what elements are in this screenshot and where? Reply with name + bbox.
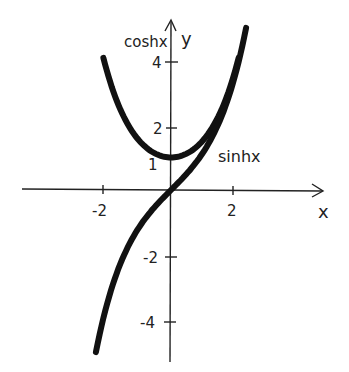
y-tick-label-4: 4 xyxy=(152,54,162,72)
y-tick-label-neg2: -2 xyxy=(143,249,158,267)
y-tick-label-neg4: -4 xyxy=(140,314,155,332)
sinh-label: sinhx xyxy=(218,147,261,166)
y-tick-label-2: 2 xyxy=(153,120,163,138)
hyperbolic-functions-chart: coshx sinhx y x -2 2 4 2 1 -2 -4 xyxy=(0,0,349,372)
y-axis-label: y xyxy=(181,28,192,49)
cosh-label: coshx xyxy=(124,33,168,51)
x-tick-label-neg2: -2 xyxy=(92,202,107,220)
y-tick-label-1: 1 xyxy=(148,156,158,174)
x-axis-label: x xyxy=(318,201,329,222)
x-tick-label-2: 2 xyxy=(227,202,237,220)
